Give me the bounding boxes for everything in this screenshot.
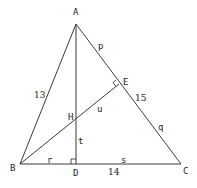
segment-label-s: s: [121, 155, 126, 165]
side-length-bc: 14: [108, 167, 120, 177]
segment-label-r: r: [47, 155, 53, 165]
right-angle-marker-d: [71, 159, 76, 164]
side-length-ab: 13: [34, 90, 46, 100]
vertex-label-d: D: [73, 168, 78, 178]
segment-label-q: q: [158, 122, 163, 132]
vertex-label-c: C: [183, 166, 188, 176]
side-ab: [20, 24, 76, 164]
vertex-label-e: E: [123, 77, 128, 87]
vertex-label-b: B: [10, 163, 15, 173]
vertex-label-a: A: [73, 7, 79, 17]
segment-label-u: u: [97, 104, 102, 114]
right-angle-marker-e: [113, 80, 116, 87]
vertex-label-h: H: [68, 112, 73, 122]
segment-label-p: p: [98, 41, 103, 51]
side-ac: [76, 24, 181, 164]
segment-label-t: t: [78, 136, 83, 146]
side-length-ac: 15: [135, 93, 147, 103]
triangle-diagram: A B C D E H 13 15 14 p q r s t u: [0, 0, 197, 188]
